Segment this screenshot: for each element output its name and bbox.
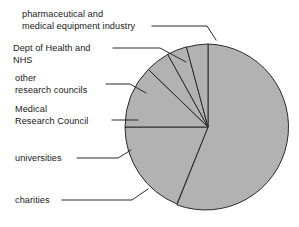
label-dept-of-health-nhs-line2: NHS xyxy=(13,55,33,65)
leader-line-charities xyxy=(62,189,148,200)
leader-line-universities xyxy=(77,150,131,158)
leader-line-pharmaceutical-industry xyxy=(152,26,216,40)
label-charities: charities xyxy=(15,195,50,205)
pie-chart-svg: pharmaceutical and medical equipment ind… xyxy=(0,0,299,227)
label-pharmaceutical-industry-line1: pharmaceutical and xyxy=(22,9,103,19)
label-medical-research-council-line2: Research Council xyxy=(15,116,88,126)
pie-labels: pharmaceutical and medical equipment ind… xyxy=(13,9,135,205)
pie-slices xyxy=(125,44,289,210)
label-pharmaceutical-industry-line2: medical equipment industry xyxy=(22,21,135,31)
label-universities: universities xyxy=(15,153,62,163)
label-medical-research-council-line1: Medical xyxy=(15,104,47,114)
label-other-research-councils-line2: research councils xyxy=(15,85,88,95)
label-dept-of-health-nhs-line1: Dept of Health and xyxy=(13,43,91,53)
pie-chart-figure: pharmaceutical and medical equipment ind… xyxy=(0,0,299,227)
label-other-research-councils-line1: other xyxy=(15,73,36,83)
